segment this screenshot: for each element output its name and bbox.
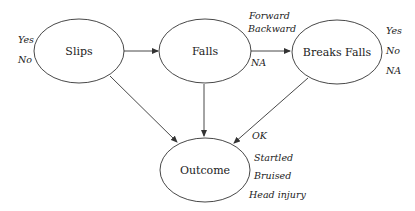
state-label: Yes — [18, 34, 34, 45]
state-label: Head injury — [248, 189, 306, 200]
node-label: Outcome — [180, 164, 230, 177]
node-label: Falls — [192, 45, 218, 58]
state-label: Startled — [254, 152, 293, 163]
node-label: Slips — [65, 45, 93, 58]
edge-slips-outcome — [110, 76, 177, 142]
node-slips: Slips — [34, 19, 124, 83]
state-label: No — [385, 45, 400, 56]
state-label: No — [17, 54, 32, 65]
edge-breaks-falls-outcome — [234, 78, 308, 143]
state-label: Forward — [248, 10, 290, 21]
state-label: NA — [250, 57, 266, 68]
state-label: Backward — [247, 23, 296, 34]
bayesian-network-diagram: Slips Falls Breaks Falls Outcome Yes No … — [0, 0, 415, 211]
node-outcome: Outcome — [160, 138, 250, 202]
node-falls: Falls — [159, 19, 251, 83]
state-label: Bruised — [253, 170, 291, 181]
state-label: OK — [252, 130, 268, 141]
state-label: Yes — [386, 25, 402, 36]
node-label: Breaks Falls — [303, 46, 372, 59]
state-label: NA — [385, 65, 401, 76]
node-breaks-falls: Breaks Falls — [292, 20, 382, 84]
